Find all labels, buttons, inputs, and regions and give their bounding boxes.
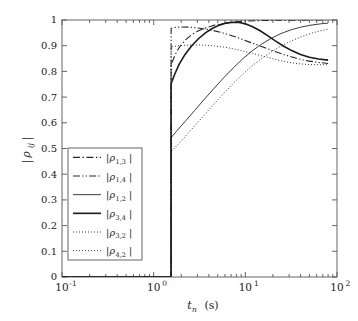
- legend-label-rho: ρ: [109, 171, 116, 182]
- x-tick-label-exponent: 1: [254, 279, 259, 288]
- y-tick-label: 0.3: [41, 194, 57, 205]
- y-tick-label: 0.8: [41, 66, 57, 77]
- y-tick-label: 1: [51, 14, 57, 25]
- legend-label-subscript: 4,2: [116, 251, 126, 259]
- x-axis-title-unit: (s): [204, 299, 218, 312]
- legend-label-rho: ρ: [109, 227, 116, 238]
- correlation-magnitude-chart: 00.10.20.30.40.50.60.70.80.9110-11001011…: [0, 0, 358, 321]
- legend: |ρ1,3||ρ1,4||ρ1,2||ρ3,4||ρ3,2||ρ4,2|: [68, 148, 142, 260]
- legend-label-bar-right: |: [129, 227, 132, 239]
- y-axis-title-bar-right: |: [20, 137, 34, 141]
- x-tick-label-base: 10: [239, 281, 252, 293]
- legend-label-subscript: 1,2: [116, 195, 126, 203]
- x-tick-label-exponent: -1: [69, 279, 76, 288]
- x-tick-label-base: 10: [330, 281, 343, 293]
- y-tick-label: 0.2: [41, 220, 57, 231]
- legend-label-bar-right: |: [129, 171, 132, 183]
- y-tick-label: 0.1: [41, 246, 57, 257]
- x-tick-label-exponent: 0: [162, 279, 167, 288]
- legend-label-subscript: 3,2: [116, 232, 126, 240]
- x-tick-label-base: 10: [55, 281, 68, 293]
- legend-label-bar-right: |: [129, 189, 132, 201]
- x-tick-label-base: 10: [147, 281, 160, 293]
- legend-label-bar-right: |: [129, 152, 132, 164]
- x-tick-label-exponent: 2: [346, 279, 351, 288]
- legend-label-rho: ρ: [109, 208, 116, 219]
- y-tick-label: 0.5: [41, 143, 57, 154]
- legend-box: [68, 148, 142, 260]
- y-tick-label: 0.4: [41, 169, 57, 180]
- legend-label-rho: ρ: [109, 152, 116, 163]
- y-axis-title-bar-left: |: [20, 160, 34, 164]
- y-tick-label: 0.9: [41, 40, 57, 51]
- y-axis-title-rho: ρ: [20, 151, 33, 159]
- y-tick-label: 0.6: [41, 117, 57, 128]
- y-axis-title-subscript: ij: [26, 142, 35, 147]
- legend-label-rho: ρ: [109, 245, 116, 256]
- legend-label-rho: ρ: [109, 189, 116, 200]
- legend-label-bar-right: |: [129, 208, 132, 220]
- legend-label-subscript: 3,4: [116, 214, 126, 222]
- legend-label-bar-right: |: [129, 245, 132, 257]
- x-axis-title-subscript: n: [192, 305, 197, 314]
- y-tick-label: 0.7: [41, 92, 57, 103]
- legend-label-subscript: 1,4: [116, 176, 126, 184]
- legend-label-subscript: 1,3: [116, 158, 126, 166]
